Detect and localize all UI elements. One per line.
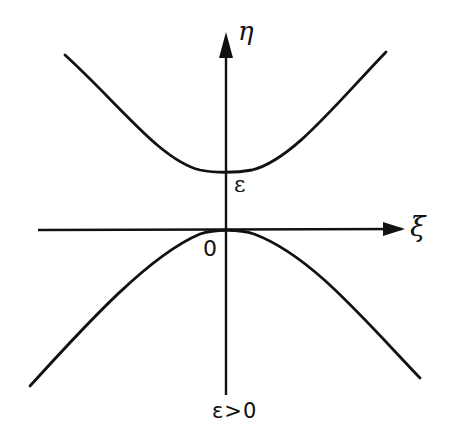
xi-axis-arrow-icon [383,222,405,236]
origin-label: 0 [203,238,217,260]
diagram-canvas [0,0,456,441]
condition-caption: ε>0 [212,401,257,422]
epsilon-intercept-label: ε [234,174,245,196]
eta-axis-label: η [238,18,254,44]
xi-axis-label: ξ [410,213,425,241]
eta-axis-arrow-icon [219,32,233,58]
